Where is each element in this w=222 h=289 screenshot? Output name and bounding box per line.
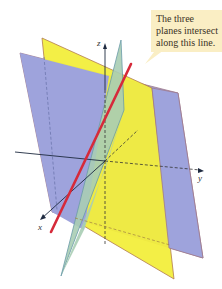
callout-line-1: The three [156, 13, 222, 25]
callout-box: The three planes intersect along this li… [151, 10, 222, 52]
y-axis-label: y [198, 173, 202, 183]
callout-line-2: planes intersect [156, 25, 222, 37]
z-axis-arrow-icon [103, 43, 107, 49]
callout-line-3: along this line. [156, 37, 222, 49]
x-axis-label: x [38, 222, 42, 232]
z-axis-label: z [97, 38, 101, 48]
